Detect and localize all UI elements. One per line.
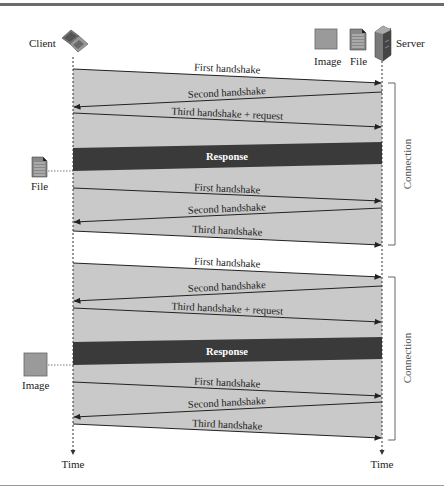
- image-icon: [315, 29, 337, 49]
- image-label: Image: [314, 55, 342, 67]
- msg-label: First handshake: [194, 256, 261, 270]
- client-label: Client: [29, 37, 56, 49]
- client-time-label: Time: [62, 458, 85, 470]
- file-label: File: [350, 55, 367, 67]
- laptop-icon: [62, 30, 88, 52]
- server-time-label: Time: [371, 458, 394, 470]
- retrieved-file-label: File: [31, 180, 48, 192]
- response-label: Response: [206, 151, 248, 162]
- connection-1-label: Connection: [401, 138, 413, 189]
- file-icon: [32, 157, 47, 177]
- connection-2-bracket: [388, 277, 395, 440]
- msg-label: First handshake: [194, 62, 261, 76]
- retrieved-image-label: Image: [22, 379, 50, 391]
- client-time-arrow: [71, 450, 76, 455]
- file-icon: [350, 29, 366, 50]
- response-label: Response: [206, 346, 248, 357]
- server-time-arrow: [380, 450, 385, 455]
- connection-1-bracket: [388, 83, 395, 245]
- sequence-diagram: First handshake Second handshake Third h…: [0, 0, 444, 494]
- image-icon: [24, 353, 47, 376]
- server-icon: [375, 26, 391, 61]
- server-label: Server: [396, 37, 425, 49]
- connection-2-label: Connection: [401, 332, 413, 383]
